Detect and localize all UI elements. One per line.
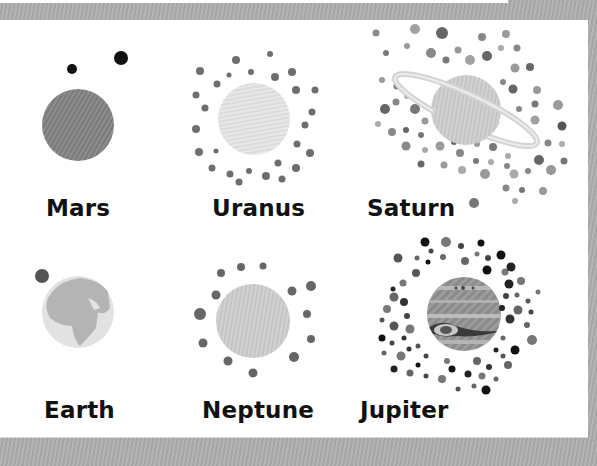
- planet-card-saturn: Saturn: [360, 20, 588, 230]
- planet-label-uranus: Uranus: [212, 195, 305, 221]
- top-edge: [0, 0, 508, 3]
- planet-card-uranus: Uranus: [180, 20, 350, 230]
- planet-label-jupiter: Jupiter: [360, 397, 449, 423]
- planet-chart-panel: Mars: [0, 20, 588, 438]
- planet-card-jupiter: Jupiter: [360, 230, 588, 437]
- planet-card-neptune: Neptune: [180, 230, 350, 437]
- planet-label-earth: Earth: [44, 397, 115, 423]
- planet-label-mars: Mars: [46, 195, 110, 221]
- planet-label-saturn: Saturn: [367, 195, 455, 221]
- planet-label-neptune: Neptune: [202, 397, 314, 423]
- planet-card-mars: Mars: [0, 20, 180, 230]
- planet-card-earth: Earth: [0, 230, 180, 437]
